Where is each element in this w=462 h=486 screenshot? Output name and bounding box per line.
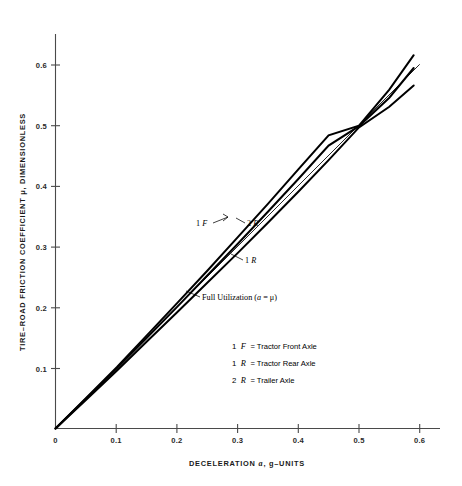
x-ticklabel-0: 0 (53, 436, 57, 445)
y-ticklabel-0.2: 0.2 (36, 304, 47, 313)
y-ticklabel-0.6: 0.6 (36, 61, 47, 70)
curve-label-full-utilization: Full Utilization (a = μ) (202, 293, 277, 302)
x-ticklabel-0.1: 0.1 (111, 436, 123, 445)
curve-label-1r-sym: R (250, 256, 256, 265)
x-axis-title-prefix: DECELERATION (189, 459, 256, 468)
y-ticklabel-0.1: 0.1 (36, 365, 48, 374)
x-ticklabel-0.3: 0.3 (232, 436, 243, 445)
legend-1f-desc: = Tractor Front Axle (250, 342, 316, 351)
legend-1r-desc: = Tractor Rear Axle (250, 359, 315, 368)
y-ticklabel-0.4: 0.4 (36, 182, 48, 191)
curve-label-2r-sym: R (252, 219, 258, 228)
curve-label-1f-sym: F (201, 219, 208, 228)
y-ticklabel-0.5: 0.5 (36, 122, 48, 131)
x-axis-title: DECELERATION a, g–UNITS (189, 459, 305, 468)
chart-svg: 0.1 0.2 0.3 0.4 0.5 0.6 TIRE–ROAD FRICTI… (0, 0, 462, 486)
legend-2r-desc: = Trailer Axle (250, 376, 294, 385)
curve-label-2r: 2 R (247, 219, 258, 228)
x-ticklabel-0.5: 0.5 (353, 436, 365, 445)
x-ticklabel-0.2: 0.2 (171, 436, 182, 445)
x-axis-title-suffix: , g–UNITS (263, 459, 305, 468)
x-ticklabel-0.4: 0.4 (293, 436, 305, 445)
chart-figure: 0.1 0.2 0.3 0.4 0.5 0.6 TIRE–ROAD FRICTI… (0, 0, 462, 486)
x-ticklabel-0.6: 0.6 (414, 436, 425, 445)
y-axis-title: TIRE–ROAD FRICTION COEFFICIENT μ, DIMENS… (18, 113, 27, 351)
curve-label-1f: 1 F (196, 219, 208, 228)
full-util-tail: = μ) (261, 293, 277, 302)
curve-label-1r: 1 R (245, 256, 256, 265)
full-util-text: Full Utilization ( (202, 293, 257, 302)
chart-background (0, 0, 462, 486)
y-ticklabel-0.3: 0.3 (36, 243, 47, 252)
